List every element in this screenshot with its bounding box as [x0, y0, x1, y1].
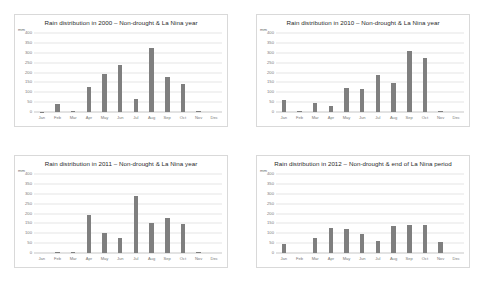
bar-cell — [417, 33, 433, 112]
bar — [149, 48, 154, 112]
bar-cell — [276, 33, 292, 112]
x-axis-tick-label: Jul — [370, 112, 386, 123]
bar-cell — [81, 33, 97, 112]
y-axis-tick-label: 0 — [15, 251, 32, 255]
bar-cell — [354, 33, 370, 112]
plot-area: 050100150200250300350400JanFebMarAprMayJ… — [15, 33, 224, 124]
y-axis-tick-label: 0 — [15, 110, 32, 114]
bar-cell — [191, 174, 207, 253]
bar-cell — [354, 174, 370, 253]
bar — [376, 75, 381, 112]
bar — [344, 229, 349, 253]
bar-cell — [206, 174, 222, 253]
x-axis-labels: JanFebMarAprMayJunJulAugSepOctNovDec — [34, 253, 222, 264]
y-axis-tick-label: 400 — [257, 31, 274, 35]
bar — [149, 223, 154, 253]
y-axis-tick-label: 400 — [15, 172, 32, 176]
x-axis-tick-label: Jun — [112, 253, 128, 264]
x-axis-tick-label: Aug — [144, 253, 160, 264]
bar-cell — [112, 33, 128, 112]
bar-cell — [159, 174, 175, 253]
y-axis-tick-label: 150 — [257, 221, 274, 225]
bar — [165, 218, 170, 253]
bar-cell — [370, 174, 386, 253]
x-axis-tick-label: Jun — [354, 253, 370, 264]
bar-cell — [34, 174, 50, 253]
x-axis-tick-label: Sep — [401, 112, 417, 123]
x-axis-tick-label: Jan — [276, 112, 292, 123]
bar-cell — [65, 33, 81, 112]
plot-area: 050100150200250300350400JanFebMarAprMayJ… — [257, 174, 466, 265]
x-axis-tick-label: Jan — [276, 253, 292, 264]
bar — [407, 51, 412, 112]
y-axis-tick-label: 200 — [15, 211, 32, 215]
bar — [360, 89, 365, 112]
x-axis-tick-label: Nov — [433, 112, 449, 123]
x-axis-tick-label: Nov — [191, 253, 207, 264]
bar-cell — [81, 174, 97, 253]
x-axis-tick-label: May — [339, 253, 355, 264]
bar-cell — [401, 33, 417, 112]
x-axis-tick-label: Feb — [50, 253, 66, 264]
bar — [376, 241, 381, 253]
chart-title: Rain distribution in 2012 – Non-drought … — [257, 160, 469, 167]
y-axis-tick-label: 250 — [15, 202, 32, 206]
x-axis-tick-label: Jun — [112, 112, 128, 123]
chart-panel-1: Rain distribution in 2000 – Non-drought … — [14, 14, 228, 127]
y-axis-tick-label: 400 — [15, 31, 32, 35]
x-axis-tick-label: Jul — [128, 253, 144, 264]
y-axis-tick-label: 250 — [257, 202, 274, 206]
x-axis-tick-label: Aug — [386, 112, 402, 123]
bar-series — [34, 174, 222, 253]
y-axis-tick-label: 250 — [15, 61, 32, 65]
y-axis-tick-label: 0 — [257, 110, 274, 114]
y-axis-tick-label: 100 — [257, 231, 274, 235]
y-axis-tick-label: 300 — [15, 51, 32, 55]
x-axis-tick-label: Apr — [81, 112, 97, 123]
y-axis-tick-label: 300 — [15, 192, 32, 196]
bar — [134, 99, 139, 112]
y-axis-tick-label: 0 — [257, 251, 274, 255]
chart-panel-slot-2: Rain distribution in 2010 – Non-drought … — [242, 0, 484, 141]
x-axis-tick-label: Oct — [417, 112, 433, 123]
bar-cell — [128, 174, 144, 253]
bar-cell — [112, 174, 128, 253]
x-axis-labels: JanFebMarAprMayJunJulAugSepOctNovDec — [276, 112, 464, 123]
y-axis-tick-label: 350 — [15, 41, 32, 45]
bar — [282, 244, 287, 253]
x-axis-tick-label: Oct — [175, 112, 191, 123]
x-axis-tick-label: Oct — [175, 253, 191, 264]
x-axis-tick-label: May — [97, 253, 113, 264]
y-axis-tick-label: 200 — [15, 70, 32, 74]
chart-title: Rain distribution in 2010 – Non-drought … — [257, 19, 469, 26]
chart-panel-slot-1: Rain distribution in 2000 – Non-drought … — [0, 0, 242, 141]
bar-cell — [417, 174, 433, 253]
chart-panel-3: Rain distribution in 2011 – Non-drought … — [14, 155, 228, 268]
bar-cell — [448, 33, 464, 112]
x-axis-tick-label: Jul — [370, 253, 386, 264]
x-axis-tick-label: Dec — [448, 253, 464, 264]
bar-cell — [433, 33, 449, 112]
bar-cell — [191, 33, 207, 112]
y-axis-tick-label: 300 — [257, 192, 274, 196]
y-axis-tick-label: 300 — [257, 51, 274, 55]
x-axis-tick-label: Oct — [417, 253, 433, 264]
x-axis-tick-label: Dec — [206, 112, 222, 123]
bar — [55, 104, 60, 112]
bar — [118, 65, 123, 112]
bar-cell — [65, 174, 81, 253]
bar-cell — [97, 174, 113, 253]
bar-cell — [206, 33, 222, 112]
bar — [181, 224, 186, 253]
plot-area: 050100150200250300350400JanFebMarAprMayJ… — [257, 33, 466, 124]
bar — [438, 242, 443, 253]
y-axis-tick-label: 100 — [257, 90, 274, 94]
bar-cell — [175, 174, 191, 253]
bar-cell — [34, 33, 50, 112]
bar-cell — [401, 174, 417, 253]
chart-title: Rain distribution in 2000 – Non-drought … — [15, 19, 227, 26]
x-axis-tick-label: Mar — [65, 253, 81, 264]
x-axis-tick-label: Mar — [65, 112, 81, 123]
bar-cell — [292, 33, 308, 112]
bar — [87, 215, 92, 253]
